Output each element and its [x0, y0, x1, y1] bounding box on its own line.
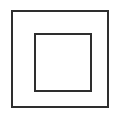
canvas-background — [0, 0, 120, 116]
concentric-squares-figure — [0, 0, 120, 116]
figure-canvas: Two concentric unfilled squares drawn as… — [0, 0, 120, 116]
